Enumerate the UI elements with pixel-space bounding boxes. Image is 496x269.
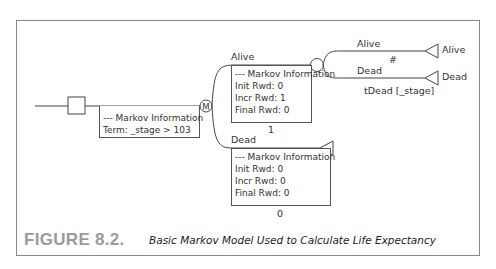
svg-text:M: M (202, 102, 209, 112)
state-dead-label: Dead (231, 134, 256, 146)
alive-incr-reward: Incr Rwd: 1 (235, 92, 308, 104)
alive-final-reward: Final Rwd: 0 (235, 104, 308, 116)
state-alive-label: Alive (231, 51, 254, 63)
branch-dead-prob: tDead [_stage] (364, 85, 434, 97)
dead-info-title: --- Markov Information (235, 151, 327, 163)
alive-init-reward: Init Rwd: 0 (235, 80, 308, 92)
figure-caption: Basic Markov Model Used to Calculate Lif… (149, 234, 436, 246)
alive-info-title: --- Markov Information (235, 68, 308, 80)
terminal-dead-icon (425, 71, 438, 85)
dead-init-reward: Init Rwd: 0 (235, 163, 327, 175)
state-alive-info: --- Markov Information Init Rwd: 0 Incr … (231, 65, 312, 123)
root-markov-info: --- Markov Information Term: _stage > 10… (99, 106, 200, 138)
root-term: Term: _stage > 103 (103, 124, 196, 136)
state-dead-value: 0 (277, 208, 283, 220)
decision-node-icon (68, 97, 85, 114)
figure-number: FIGURE 8.2. (24, 230, 125, 250)
terminal-dead-label: Dead (442, 71, 467, 83)
branch-dead-label: Dead (357, 65, 382, 77)
root-info-title: --- Markov Information (103, 112, 196, 124)
branch-alive-prob: # (389, 54, 397, 66)
branch-alive-label: Alive (357, 38, 380, 50)
state-dead-info: --- Markov Information Init Rwd: 0 Incr … (231, 148, 331, 206)
terminal-alive-icon (425, 44, 438, 58)
dead-final-reward: Final Rwd: 0 (235, 187, 327, 199)
terminal-alive-label: Alive (442, 44, 465, 56)
state-alive-value: 1 (268, 124, 274, 136)
dead-incr-reward: Incr Rwd: 0 (235, 175, 327, 187)
